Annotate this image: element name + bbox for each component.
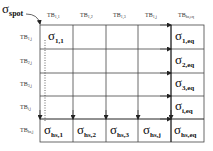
column-header-2: TB1,2	[80, 12, 93, 19]
cell-sigma-i-eq: σi,eq	[175, 98, 193, 115]
cell-sigma-2-eq: σ2,eq	[175, 52, 194, 69]
row-header-1: TB1,j	[20, 34, 32, 41]
column-header-4: TB1,j	[145, 12, 157, 19]
cell-sigma-hs-1: σhs,1	[44, 122, 63, 139]
column-header-5: TBhs,eq	[178, 12, 194, 19]
cell-sigma-3-eq: σ3,eq	[175, 75, 194, 92]
cell-sigma-hs-eq: σhs,eq	[174, 122, 196, 139]
cell-sigma-hs-3: σhs,3	[110, 122, 129, 139]
column-header-1: TB1,1	[47, 12, 60, 19]
cell-sigma-hs-2: σhs,2	[77, 122, 96, 139]
row-header-4: TBi,j	[20, 104, 31, 111]
row-header-3: TB3,j	[20, 81, 32, 88]
row-header-2: TB2,j	[20, 58, 32, 65]
spot-subscript: spot	[9, 9, 23, 18]
cell-sigma-hs-j: σhs,j	[143, 122, 161, 139]
cell-sigma-1-1: σ1,1	[48, 28, 64, 45]
cell-sigma-1-eq: σ1,eq	[175, 28, 194, 45]
sigma-symbol: σ	[2, 1, 9, 16]
sigma-spot-label: σspot	[2, 1, 23, 18]
row-header-5: TBhs,j	[20, 127, 33, 134]
column-header-3: TB1,3	[113, 12, 126, 19]
